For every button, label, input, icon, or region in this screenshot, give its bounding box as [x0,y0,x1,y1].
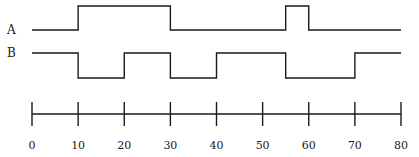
tick-label: 0 [29,139,36,152]
tick-label: 20 [117,139,131,152]
tick-label: 30 [163,139,177,152]
tick-label: 10 [71,139,85,152]
tick-label: 50 [256,139,270,152]
signal-b: B [7,46,401,78]
signal-label: B [7,46,16,60]
signal-label: A [6,23,16,37]
signal-waveform [32,6,401,30]
tick-label: 40 [210,139,224,152]
signal-waveform [32,53,401,78]
tick-label: 60 [302,139,316,152]
tick-label: 70 [348,139,362,152]
signal-a: A [6,6,401,37]
tick-label: 80 [394,139,408,152]
time-axis: 01020304050607080 [29,102,409,152]
timing-diagram: AB 01020304050607080 [0,0,419,157]
signals: AB [6,6,401,78]
